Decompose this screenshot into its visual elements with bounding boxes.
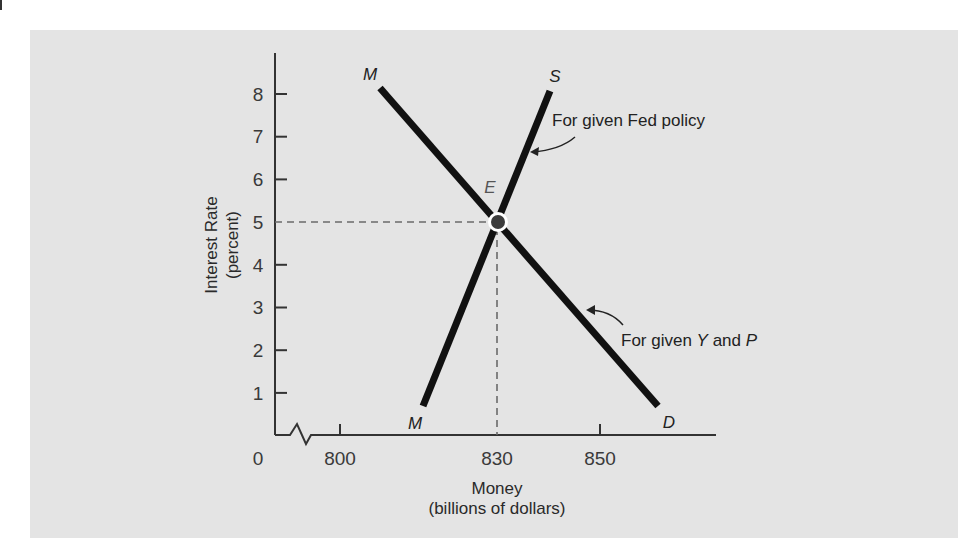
money-supply-curve (423, 91, 550, 406)
y-tick-8: 8 (253, 84, 264, 105)
x-tick-850: 850 (584, 448, 616, 469)
ms-bottom-label: M (408, 414, 423, 433)
yp-var-p: P (746, 331, 758, 350)
equilibrium-point (491, 215, 505, 229)
yp-mid: and (708, 331, 746, 350)
y-tick-4: 4 (253, 255, 264, 276)
x-tick-800: 800 (324, 448, 356, 469)
axis-break-icon (275, 424, 716, 444)
fed-policy-annotation: For given Fed policy (552, 111, 706, 130)
y-tick-6: 6 (253, 169, 264, 190)
x-tick-0: 0 (253, 448, 264, 469)
yp-arrowhead-icon (586, 305, 595, 315)
money-demand-curve (380, 88, 658, 406)
x-axis-subtitle: (billions of dollars) (429, 499, 566, 518)
md-top-label: M (363, 65, 378, 84)
x-axis (275, 424, 716, 444)
md-bottom-label: D (663, 413, 675, 432)
y-tick-7: 7 (253, 126, 264, 147)
y-tick-5: 5 (253, 212, 264, 233)
x-tick-labels: 0 800 830 850 (253, 448, 616, 469)
y-tick-1: 1 (253, 383, 264, 404)
ms-top-label: S (549, 67, 561, 86)
y-tick-2: 2 (253, 340, 264, 361)
equilibrium-label: E (484, 178, 496, 197)
x-tick-830: 830 (481, 448, 513, 469)
x-axis-title: Money (471, 479, 523, 498)
fed-arrowhead-icon (530, 147, 539, 156)
y-tick-3: 3 (253, 297, 264, 318)
y-tick-labels: 8 7 6 5 4 3 2 1 (253, 84, 264, 404)
y-and-p-annotation: For given Y and P (621, 331, 758, 350)
y-axis-title: Interest Rate (202, 196, 221, 293)
y-axis-subtitle: (percent) (223, 211, 242, 279)
yp-prefix: For given (621, 331, 697, 350)
money-market-chart: 8 7 6 5 4 3 2 1 0 800 830 850 Money (bil… (0, 0, 975, 553)
y-axis (275, 53, 287, 435)
